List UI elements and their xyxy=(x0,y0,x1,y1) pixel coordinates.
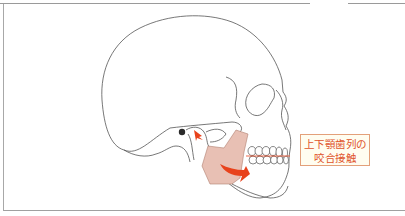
lower-teeth xyxy=(249,156,289,164)
skull-diagram xyxy=(0,0,405,216)
mastoid-outline xyxy=(124,146,190,162)
styloid-process xyxy=(188,134,194,160)
zygomatic-line xyxy=(226,77,240,118)
orbit-outline xyxy=(246,84,275,116)
label-line-1: 上下顎歯列の xyxy=(301,137,369,151)
coronoid-outline xyxy=(206,129,226,142)
label-line-2: 咬合接触 xyxy=(301,151,369,165)
occlusal-contact-label: 上下顎歯列の 咬合接触 xyxy=(300,134,370,166)
joint-arrow-icon xyxy=(194,130,203,141)
cranium-outline xyxy=(102,16,291,198)
mandible-outline xyxy=(232,184,288,198)
nasal-outline xyxy=(276,90,286,130)
ear-canal xyxy=(179,129,185,135)
